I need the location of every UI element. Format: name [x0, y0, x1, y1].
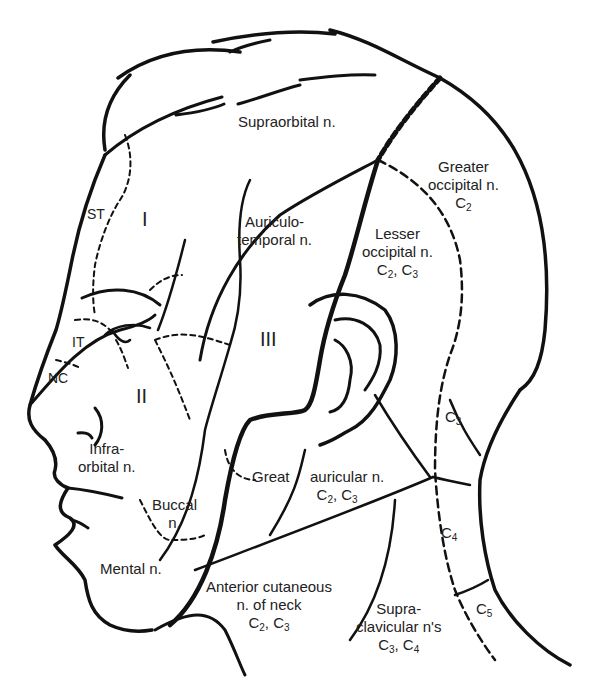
label-roman-2: II	[136, 385, 147, 408]
supraclavicular-line2: clavicular n's	[356, 618, 441, 636]
ear-inner	[330, 319, 380, 412]
lesser-occipital-line1: Lesser	[362, 225, 433, 243]
label-lesser-occipital: Lesser occipital n. C2, C3	[362, 225, 433, 284]
label-st: ST	[87, 205, 105, 223]
lip	[68, 488, 122, 528]
label-roman-1: I	[142, 208, 148, 231]
label-auriculotemporal: Auriculo- temporal n.	[237, 213, 312, 249]
greater-occipital-line3: C2	[428, 194, 499, 217]
infraorbital-line1: Infra-	[78, 440, 136, 458]
vertex-dashed-line	[378, 78, 440, 160]
lesser-occipital-line3: C2, C3	[362, 261, 433, 284]
greater-occipital-line2: occipital n.	[428, 176, 499, 194]
buccal-line2: n.	[152, 514, 197, 532]
label-greater-occipital: Greater occipital n. C2	[428, 158, 499, 217]
anterior-cutaneous-line2: n. of neck	[206, 596, 332, 614]
great-auricular-line2: auricular n.	[310, 468, 384, 486]
label-supraclavicular: Supra- clavicular n's C3, C4	[356, 600, 441, 659]
greater-occipital-line1: Greater	[428, 158, 499, 176]
anterior-cutaneous-line1: Anterior cutaneous	[206, 578, 332, 596]
infraorbital-line2: orbital n.	[78, 458, 136, 476]
ear-outer	[310, 294, 396, 445]
label-c5: C5	[476, 600, 492, 623]
label-supraorbital: Supraorbital n.	[238, 113, 336, 131]
c4-c3-boundary	[433, 477, 470, 485]
label-anterior-cutaneous: Anterior cutaneous n. of neck C2, C3	[206, 578, 332, 637]
auriculotemporal-line2: temporal n.	[237, 231, 312, 249]
hair-curl	[230, 40, 270, 52]
label-c4: C4	[441, 524, 457, 547]
neck-back-outline	[480, 390, 570, 665]
supraclavicular-line3: C3, C4	[356, 636, 441, 659]
label-great-auricular-1: Great	[252, 468, 290, 486]
label-buccal: Buccal n.	[152, 496, 197, 532]
lesser-occipital-line2: occipital n.	[362, 243, 433, 261]
anterior-cutaneous-line3: C2, C3	[206, 614, 332, 637]
label-c3: C3	[445, 408, 461, 431]
great-auricular-line	[375, 395, 430, 477]
st-dashed-line	[93, 135, 130, 315]
great-auricular-line3: C2, C3	[290, 486, 384, 509]
label-great-auricular: auricular n. C2, C3	[310, 468, 384, 509]
supraclavicular-line1: Supra-	[356, 600, 441, 618]
auriculotemporal-line1: Auriculo-	[237, 213, 312, 231]
label-mental: Mental n.	[100, 560, 162, 578]
buccal-line1: Buccal	[152, 496, 197, 514]
label-it: IT	[72, 333, 84, 351]
label-nc: NC	[48, 369, 68, 387]
c5-boundary	[455, 580, 488, 595]
label-roman-3: III	[260, 328, 277, 351]
label-infraorbital: Infra- orbital n.	[78, 440, 136, 476]
